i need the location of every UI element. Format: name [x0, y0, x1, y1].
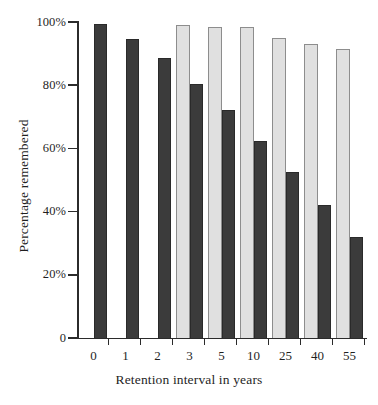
y-axis-tick — [68, 148, 78, 150]
bar-dark-10 — [254, 141, 268, 339]
y-axis-title: Percentage remembered — [16, 86, 32, 286]
bar-light-3 — [176, 25, 190, 338]
y-axis-tick-label: 20% — [43, 268, 66, 281]
x-axis-tick — [108, 338, 109, 345]
y-axis-tick — [68, 337, 78, 339]
bar-dark-55 — [350, 237, 364, 338]
x-axis-tick — [204, 338, 205, 345]
y-axis-tick-label: 80% — [43, 79, 66, 92]
x-axis-tick-label: 40 — [311, 349, 324, 363]
x-axis-tick-label: 10 — [247, 349, 260, 363]
y-axis-tick-label: 0 — [60, 332, 66, 345]
bar-light-10 — [240, 27, 254, 338]
y-axis-tick-label: 60% — [43, 142, 66, 155]
bar-dark-25 — [286, 172, 300, 338]
x-axis-tick — [172, 338, 173, 345]
bar-light-40 — [304, 44, 318, 338]
bar-dark-0 — [94, 24, 108, 338]
x-axis-tick — [364, 338, 365, 345]
bar-light-25 — [272, 38, 286, 338]
x-axis-tick-label: 1 — [122, 349, 129, 363]
y-axis-tick — [68, 211, 78, 213]
y-axis-tick-label: 100% — [36, 16, 66, 29]
bar-dark-40 — [318, 205, 332, 338]
bar-dark-3 — [190, 84, 204, 338]
chart-figure: 020%40%60%80%100% 0123510254055 Retentio… — [0, 0, 378, 405]
x-axis-tick — [332, 338, 333, 345]
x-axis-tick-label: 5 — [218, 349, 225, 363]
x-axis-title: Retention interval in years — [0, 372, 378, 388]
x-axis-tick-label: 0 — [90, 349, 97, 363]
x-axis-tick-label: 2 — [154, 349, 161, 363]
y-axis-tick — [68, 84, 78, 86]
bar-light-5 — [208, 27, 222, 338]
x-axis-tick-label: 55 — [343, 349, 356, 363]
x-axis-tick-label: 3 — [186, 349, 193, 363]
bar-dark-2 — [158, 58, 172, 338]
plot-area — [78, 22, 366, 338]
bar-light-55 — [336, 49, 350, 338]
y-axis-tick-label: 40% — [43, 205, 66, 218]
x-axis-tick — [300, 338, 301, 345]
bar-dark-1 — [126, 39, 140, 338]
bar-dark-5 — [222, 110, 236, 338]
x-axis-tick-label: 25 — [279, 349, 292, 363]
y-axis-tick — [68, 21, 78, 23]
x-axis-tick — [140, 338, 141, 345]
y-axis-tick — [68, 274, 78, 276]
x-axis-tick — [236, 338, 237, 345]
x-axis-tick — [268, 338, 269, 345]
